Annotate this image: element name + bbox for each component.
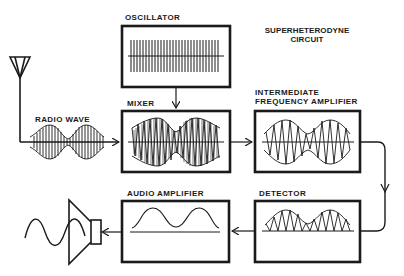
speaker-icon (69, 200, 101, 264)
diagram-title: SUPERHETERODYNE CIRCUIT (253, 26, 361, 44)
audio-amplifier-label: AUDIO AMPLIFIER (127, 189, 204, 198)
superheterodyne-diagram: OSCILLATOR SUPERHETERODYNE CIRCUIT MIXER… (0, 0, 404, 276)
oscillator-label: OSCILLATOR (125, 13, 180, 22)
detector-box (255, 201, 360, 262)
mixer-box (122, 111, 230, 172)
detector-label: DETECTOR (259, 189, 306, 198)
radio-wave-label: RADIO WAVE (35, 115, 90, 124)
if-to-detector-connector (360, 142, 385, 231)
if-amplifier-label: INTERMEDIATE FREQUENCY AMPLIFIER (255, 88, 358, 106)
if-label-line-2: FREQUENCY AMPLIFIER (255, 97, 358, 106)
title-line-2: CIRCUIT (253, 35, 361, 44)
mixer-label: MIXER (127, 99, 154, 108)
if-label-line-1: INTERMEDIATE (255, 88, 358, 97)
sound-wave-icon (25, 219, 85, 246)
audio-amplifier-box (122, 201, 229, 262)
if-amplifier-box (255, 111, 360, 172)
title-line-1: SUPERHETERODYNE (253, 26, 361, 35)
antenna-icon (10, 57, 119, 142)
oscillator-box (122, 26, 230, 87)
